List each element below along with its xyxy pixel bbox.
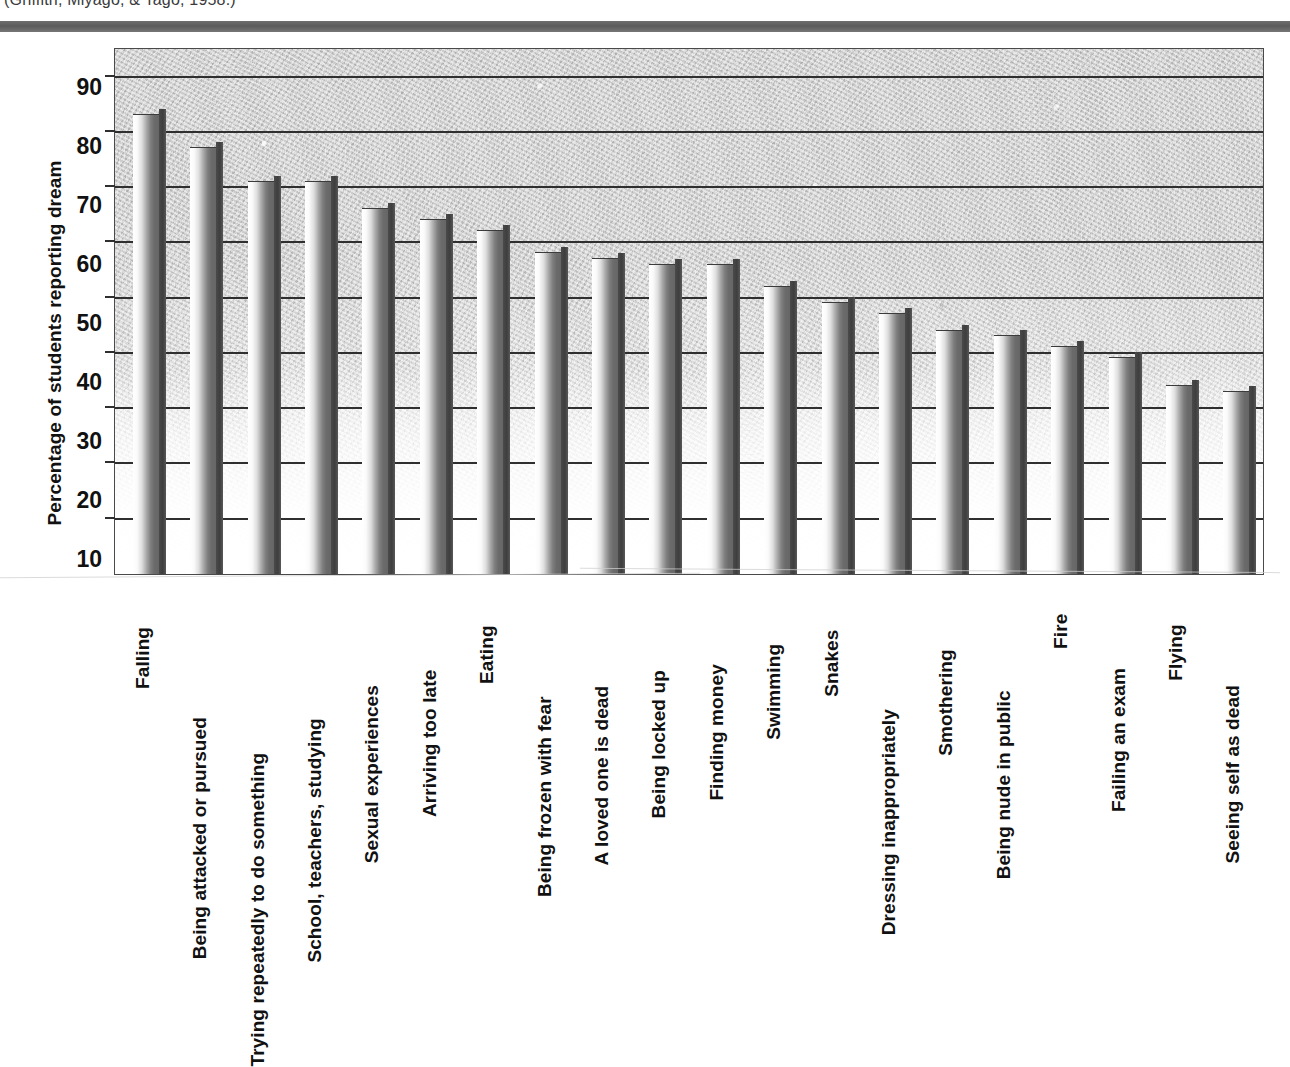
bar-3	[305, 176, 338, 574]
x-label-slot-11: Swimming	[761, 592, 787, 942]
x-label-slot-7: Being frozen with fear	[532, 592, 558, 942]
bar-8	[592, 253, 625, 574]
bar-9	[649, 259, 682, 574]
x-axis-label: Fire	[1061, 578, 1083, 613]
plot-area	[114, 48, 1264, 575]
bar-19	[1223, 386, 1256, 574]
x-label-slot-8: A loved one is dead	[589, 592, 615, 942]
tickmark-60	[105, 240, 115, 242]
bar-face	[822, 302, 848, 574]
x-label-slot-19: Seeing self as dead	[1220, 592, 1246, 942]
bar-16	[1051, 341, 1084, 574]
x-axis-label-text: Seeing self as dead	[1222, 685, 1244, 863]
top-divider-rule	[0, 21, 1290, 32]
bar-6	[477, 225, 510, 574]
x-axis-label-text: Being nude in public	[993, 690, 1015, 879]
x-axis-label-text: Eating	[476, 625, 498, 684]
bar-face	[936, 330, 962, 574]
bar-face	[420, 219, 446, 574]
y-tick-30: 30	[56, 430, 102, 453]
bar-side-edge	[274, 176, 281, 574]
bar-face	[592, 258, 618, 574]
bar-7	[535, 247, 568, 574]
bar-0	[133, 109, 166, 574]
x-axis-label-text: School, teachers, studying	[304, 718, 326, 962]
x-axis-label-text: Falling	[132, 627, 154, 689]
bar-18	[1166, 380, 1199, 574]
bar-side-edge	[388, 203, 395, 574]
bar-face	[248, 181, 274, 574]
bar-side-edge	[1077, 341, 1084, 574]
y-axis-tick-labels: 90 80 70 60 50 40 30 20 10	[44, 32, 102, 592]
x-axis-label-text: Arriving too late	[419, 670, 441, 817]
bar-side-edge	[905, 308, 912, 574]
tickmark-90	[105, 75, 115, 77]
x-axis-label-text: A loved one is dead	[591, 686, 613, 866]
bar-face	[1109, 357, 1135, 574]
citation-clip: (Griffith, Miyago, & Tago, 1958.)	[0, 0, 1290, 17]
x-label-slot-0: Falling	[130, 592, 156, 942]
bar-face	[133, 114, 159, 574]
bar-12	[822, 297, 855, 574]
tickmark-70	[105, 185, 115, 187]
x-axis-label-text: Being attacked or pursued	[189, 717, 211, 959]
x-axis-label-text: Snakes	[821, 630, 843, 697]
bar-face	[535, 252, 561, 574]
x-label-slot-5: Arriving too late	[417, 592, 443, 942]
bar-side-edge	[1020, 330, 1027, 574]
x-label-slot-6: Eating	[474, 592, 500, 942]
bar-17	[1109, 352, 1142, 574]
x-label-slot-14: Smothering	[933, 592, 959, 942]
x-label-slot-3: School, teachers, studying	[302, 592, 328, 942]
x-label-slot-16: Fire	[1048, 592, 1074, 942]
y-tick-10: 10	[56, 548, 102, 571]
x-axis-label-text: Trying repeatedly to do something	[247, 753, 269, 1067]
bar-face	[305, 181, 331, 574]
x-label-slot-10: Finding money	[704, 592, 730, 942]
tickmark-80	[105, 130, 115, 132]
bar-4	[362, 203, 395, 574]
bar-side-edge	[1135, 352, 1142, 574]
y-tick-80: 80	[56, 135, 102, 158]
tickmark-20	[105, 461, 115, 463]
bar-5	[420, 214, 453, 574]
x-label-slot-15: Being nude in public	[991, 592, 1017, 942]
bar-11	[764, 281, 797, 574]
bar-side-edge	[1192, 380, 1199, 574]
bar-face	[1051, 346, 1077, 574]
bar-face	[764, 286, 790, 574]
bar-face	[649, 264, 675, 574]
tickmark-40	[105, 351, 115, 353]
x-axis-label-text: Failing an exam	[1108, 668, 1130, 812]
bar-face	[879, 313, 905, 574]
x-label-slot-13: Dressing inappropriately	[876, 592, 902, 942]
x-label-slot-2: Trying repeatedly to do something	[245, 592, 271, 942]
x-label-slot-9: Being locked up	[646, 592, 672, 942]
y-tick-40: 40	[56, 371, 102, 394]
bar-side-edge	[848, 297, 855, 574]
bar-face	[190, 147, 216, 574]
tickmark-10	[105, 517, 115, 519]
bar-side-edge	[446, 214, 453, 574]
x-label-slot-4: Sexual experiences	[359, 592, 385, 942]
bar-chart-figure: Percentage of students reporting dream 9…	[0, 32, 1290, 1014]
bar-face	[1223, 391, 1249, 574]
y-tick-50: 50	[56, 312, 102, 335]
bar-side-edge	[561, 247, 568, 574]
x-axis-label-text: Flying	[1165, 624, 1187, 681]
bar-face	[362, 208, 388, 574]
x-axis-label-text: Fire	[1050, 614, 1072, 649]
x-axis-label-text: Smothering	[935, 649, 957, 756]
bar-15	[994, 330, 1027, 574]
y-tick-60: 60	[56, 253, 102, 276]
x-axis-label-text: Swimming	[763, 644, 785, 740]
bar-side-edge	[331, 176, 338, 574]
bar-2	[248, 176, 281, 574]
tickmark-30	[105, 406, 115, 408]
bars-group	[115, 49, 1263, 574]
y-tick-20: 20	[56, 489, 102, 512]
x-axis-label: Falling	[143, 565, 165, 627]
bar-face	[1166, 385, 1192, 574]
x-axis-label: Flying	[1176, 568, 1198, 625]
x-axis-label-text: Being frozen with fear	[534, 696, 556, 897]
